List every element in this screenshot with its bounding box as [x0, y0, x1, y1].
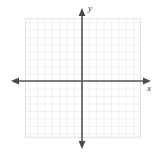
y-axis-arrow-down-icon [79, 141, 86, 149]
grid-area [25, 19, 140, 137]
coordinate-plane-svg [0, 0, 156, 155]
x-axis-arrow-left-icon [11, 78, 19, 85]
coordinate-plane-figure: y x [0, 0, 156, 155]
x-axis-label: x [147, 84, 151, 93]
y-axis-arrow-up-icon [79, 8, 86, 16]
y-axis-label: y [88, 4, 92, 13]
